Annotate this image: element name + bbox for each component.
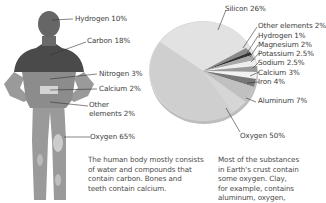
crust-caption-line: some oxygen. Clay, [218,174,299,184]
body-caption: The human body mostly consists of water … [88,155,204,193]
crust-label-aluminum: Aluminum 7% [258,97,307,105]
crust-caption-line: for example, contains [218,184,299,194]
crust-caption-line: in Earth's crust contain [218,165,299,175]
crust-label-potassium: Potassium 2.5% [258,50,314,58]
body-label-nitrogen: Nitrogen 3% [99,70,143,78]
crust-caption-line: Most of the substances [218,155,299,165]
crust-caption: Most of the substances in Earth's crust … [218,155,299,203]
crust-label-other: Other elements 2% [258,22,326,30]
crust-label-silicon: Silicon 26% [225,5,266,13]
body-caption-line: The human body mostly consists [88,155,204,165]
body-caption-line: teeth contain calcium. [88,184,204,194]
crust-label-sodium: Sodium 2.5% [258,59,305,67]
crust-caption-line: aluminum, oxygen, [218,193,299,203]
body-label-carbon: Carbon 18% [87,37,130,45]
body-label-calcium: Calcium 2% [99,85,141,93]
body-caption-line: contain carbon. Bones and [88,174,204,184]
body-label-hydrogen: Hydrogen 10% [75,15,127,23]
body-caption-line: of water and compounds that [88,165,204,175]
crust-label-iron: Iron 4% [258,78,285,86]
crust-label-magnesium: Magnesium 2% [258,41,312,49]
body-label-other-line2: elements 2% [89,110,135,118]
body-label-oxygen: Oxygen 65% [90,133,135,141]
crust-label-hydrogen: Hydrogen 1% [258,32,306,40]
body-label-other-line1: Other [89,101,109,109]
crust-label-calcium: Calcium 3% [258,69,300,77]
crust-label-oxygen: Oxygen 50% [240,132,285,140]
